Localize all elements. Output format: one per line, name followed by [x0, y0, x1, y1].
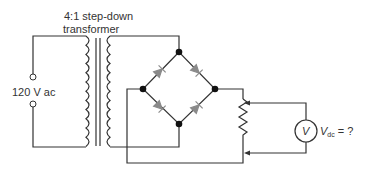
negative-output-wire: [127, 89, 243, 163]
output-label-suffix: = ?: [335, 125, 354, 137]
secondary-bottom-wire: [110, 124, 179, 147]
positive-output-wire: [215, 89, 243, 99]
arrow-bottom-icon: [244, 151, 250, 156]
terminal-bottom: [30, 101, 36, 107]
output-label-sub: dc: [327, 131, 334, 138]
meter-symbol: V: [302, 125, 309, 137]
primary-top-wire: [33, 36, 86, 74]
junction-nodes: [140, 49, 219, 128]
secondary-top-wire: [110, 36, 179, 52]
arrow-top-icon: [244, 101, 250, 106]
primary-coil: [86, 36, 89, 146]
transformer-label-1: 4:1 step-down: [64, 10, 133, 22]
diodes: [153, 64, 203, 114]
diode-3-icon: [153, 100, 166, 113]
meter-top-lead: [247, 103, 306, 120]
bridge-diamond: [143, 52, 215, 124]
meter-bottom-lead: [247, 142, 306, 153]
load-resistor: [239, 99, 247, 151]
source-label: 120 V ac: [12, 86, 55, 98]
primary-bottom-wire: [33, 107, 86, 147]
secondary-coil: [107, 36, 110, 146]
terminal-top: [30, 74, 36, 80]
output-label: Vdc = ?: [320, 125, 353, 141]
transformer-label-2: transformer: [63, 23, 119, 35]
